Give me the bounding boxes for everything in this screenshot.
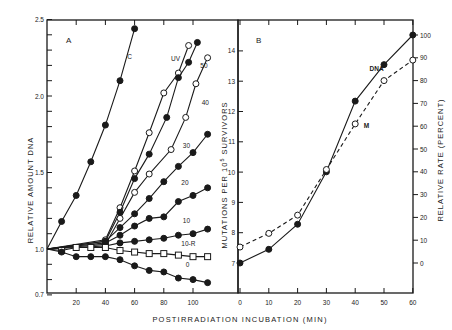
series-20: 20 (47, 179, 211, 249)
panel-a-y-ticks: 0.71.01.52.02.5 (35, 16, 52, 298)
marker-open-circle (117, 215, 123, 221)
marker-filled-circle (132, 223, 138, 229)
marker-open-circle (352, 121, 358, 127)
y-tick-label: 9 (231, 199, 235, 206)
marker-open-circle (295, 212, 301, 218)
marker-filled-circle (205, 131, 211, 137)
marker-filled-circle (161, 269, 167, 275)
panel-b-right-y-ticks: 0102030405060708090100 (413, 32, 431, 267)
x-tick-label: 60 (409, 299, 417, 306)
marker-filled-circle (161, 214, 167, 220)
marker-filled-circle (205, 226, 211, 232)
marker-filled-circle (295, 221, 301, 227)
x-tick-label: 60 (131, 299, 139, 306)
marker-open-square (73, 244, 79, 250)
y-tick-label: 14 (228, 47, 236, 54)
series-label: 30 (183, 142, 191, 149)
marker-filled-circle (205, 280, 211, 286)
right-y-tick-label: 50 (420, 146, 428, 153)
panel-a-letter: A (66, 36, 72, 45)
marker-open-square (146, 251, 152, 257)
marker-filled-circle (146, 215, 152, 221)
marker-filled-circle (88, 254, 94, 260)
marker-filled-circle (190, 231, 196, 237)
right-y-tick-label: 10 (420, 237, 428, 244)
marker-filled-circle (59, 218, 65, 224)
marker-filled-circle (146, 267, 152, 273)
marker-open-circle (186, 43, 192, 49)
y-tick-label: 0.7 (35, 291, 44, 298)
marker-open-circle (237, 244, 243, 250)
panel-b-left-y-ticks: 7891011121314 (228, 47, 243, 266)
marker-open-square (88, 244, 94, 250)
right-y-tick-label: 70 (420, 100, 428, 107)
marker-filled-circle (237, 260, 243, 266)
marker-filled-circle (132, 211, 138, 217)
marker-filled-circle (352, 98, 358, 104)
marker-filled-circle (132, 263, 138, 269)
marker-filled-circle (102, 122, 108, 128)
right-y-tick-label: 0 (420, 260, 424, 267)
marker-open-square (132, 249, 138, 255)
marker-filled-circle (146, 151, 152, 157)
marker-filled-circle (132, 26, 138, 32)
right-y-tick-label: 90 (420, 54, 428, 61)
x-tick-label: 20 (294, 299, 302, 306)
y-tick-label: 7 (231, 260, 235, 267)
x-tick-label: 50 (380, 299, 388, 306)
series-label: 20 (181, 179, 189, 186)
y-tick-label: 1.0 (35, 246, 44, 253)
panel-a-frame (47, 20, 238, 293)
marker-open-circle (132, 189, 138, 195)
marker-filled-circle (102, 254, 108, 260)
panel-b-left-y-axis-label: MUTATIONS PER 105 SURVIVORS (219, 101, 229, 248)
marker-open-circle (161, 90, 167, 96)
right-y-tick-label: 30 (420, 191, 428, 198)
series-label: 40 (202, 99, 210, 106)
x-tick-label: 20 (73, 299, 81, 306)
series-c: C (47, 26, 138, 249)
panel-a-y-axis-label: RELATIVE AMOUNT DNA (26, 137, 35, 244)
marker-filled-circle (117, 257, 123, 263)
series-10-r: 10-R (47, 240, 211, 260)
marker-open-circle (146, 130, 152, 136)
series-label: DNA (370, 65, 384, 72)
marker-filled-circle (175, 199, 181, 205)
marker-open-circle (381, 78, 387, 84)
marker-filled-circle (164, 114, 170, 120)
marker-filled-circle (161, 179, 167, 185)
series-label: C (127, 53, 132, 60)
marker-filled-circle (190, 277, 196, 283)
marker-filled-circle (161, 235, 167, 241)
marker-filled-circle (190, 192, 196, 198)
marker-open-circle (266, 230, 272, 236)
marker-filled-circle (132, 238, 138, 244)
series-label: 10-R (181, 240, 195, 247)
panel-b-series: DNAM (237, 32, 416, 266)
marker-filled-circle (175, 275, 181, 281)
marker-open-square (190, 254, 196, 260)
marker-filled-circle (175, 232, 181, 238)
marker-open-circle (168, 147, 174, 153)
x-axis-label: POSTIRRADIATION INCUBATION (MIN) (152, 315, 327, 324)
x-tick-label: 80 (160, 299, 168, 306)
series-dna: DNA (237, 32, 416, 266)
marker-filled-circle (117, 225, 123, 231)
right-y-tick-label: 20 (420, 214, 428, 221)
marker-filled-circle (73, 192, 79, 198)
right-y-tick-label: 40 (420, 168, 428, 175)
y-tick-label: 8 (231, 229, 235, 236)
right-y-tick-label: 60 (420, 123, 428, 130)
marker-filled-circle (266, 246, 272, 252)
y-tick-label: 2.5 (35, 16, 44, 23)
marker-open-square (205, 254, 211, 260)
y-tick-label: 2.0 (35, 93, 44, 100)
marker-filled-circle (186, 59, 192, 65)
marker-open-circle (193, 81, 199, 87)
series-label: UV (171, 55, 181, 62)
marker-filled-circle (175, 163, 181, 169)
panel-b-letter: B (256, 36, 261, 45)
series-label: 0 (186, 261, 190, 268)
marker-open-circle (323, 167, 329, 173)
marker-open-square (102, 244, 108, 250)
